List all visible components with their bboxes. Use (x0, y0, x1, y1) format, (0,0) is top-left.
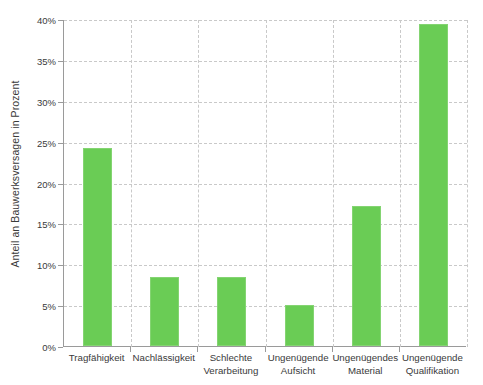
bar-chart-figure: Anteil an Bauwerksversagen in Prozent 0%… (0, 0, 483, 385)
bar[interactable] (217, 277, 246, 346)
x-axis-category-label: Nachlässigkeit (126, 352, 201, 365)
x-axis-category-label: SchlechteVerarbeitung (193, 352, 268, 377)
gridline-vertical (467, 20, 468, 347)
bar[interactable] (419, 24, 448, 346)
gridline-vertical (266, 20, 267, 347)
y-axis-tick-label: 0% (22, 342, 56, 353)
x-axis-category-label: UngenügendeAufsicht (261, 352, 336, 377)
bar[interactable] (150, 277, 179, 346)
y-axis-tick-label: 30% (22, 96, 56, 107)
gridline-vertical (333, 20, 334, 347)
y-axis-tick-label: 10% (22, 260, 56, 271)
gridline-vertical (400, 20, 401, 347)
bar[interactable] (83, 148, 112, 346)
x-axis-category-label: Tragfähigkeit (59, 352, 134, 365)
y-axis-tick-label: 20% (22, 178, 56, 189)
bar[interactable] (285, 305, 314, 346)
x-axis-category-label: UngenügendesMaterial (328, 352, 403, 377)
x-axis-category-label: UngenügendeQualifikation (395, 352, 470, 377)
y-axis-title: Anteil an Bauwerksversagen in Prozent (0, 0, 30, 347)
y-axis-tick-label: 15% (22, 219, 56, 230)
y-axis-title-text: Anteil an Bauwerksversagen in Prozent (9, 80, 21, 267)
y-axis-tick-mark (58, 347, 63, 348)
bar[interactable] (352, 206, 381, 346)
y-axis-tick-label: 40% (22, 15, 56, 26)
plot-area (63, 20, 466, 347)
gridline-vertical (198, 20, 199, 347)
gridline-vertical (131, 20, 132, 347)
y-axis-tick-label: 35% (22, 55, 56, 66)
y-axis-tick-label: 25% (22, 137, 56, 148)
y-axis-tick-label: 5% (22, 301, 56, 312)
